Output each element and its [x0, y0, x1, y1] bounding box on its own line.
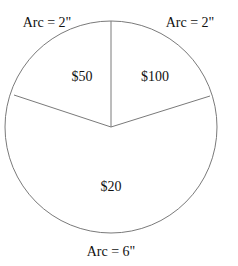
spinner-diagram: $50 $100 $20 Arc = 2" Arc = 2" Arc = 6": [0, 0, 238, 266]
sector-label-100: $100: [141, 69, 169, 84]
arc-label-bottom: Arc = 6": [87, 244, 136, 259]
arc-label-right: Arc = 2": [166, 15, 215, 30]
divider-left: [14, 95, 111, 127]
arc-label-left: Arc = 2": [23, 15, 72, 30]
sector-label-20: $20: [101, 179, 122, 194]
divider-right: [111, 96, 210, 127]
sector-label-50: $50: [72, 69, 93, 84]
